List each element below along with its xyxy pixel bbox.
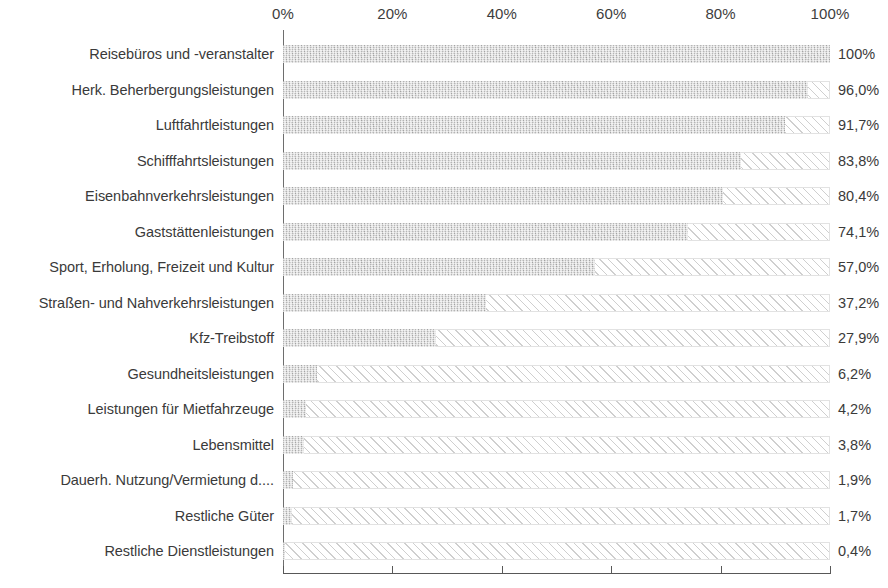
category-label: Dauerh. Nutzung/Vermietung d.... [0, 471, 274, 489]
axis-tick-mark [830, 566, 831, 574]
bar-remainder-hatch [283, 542, 830, 560]
bar-row [283, 400, 830, 418]
bar-fill [283, 436, 304, 454]
category-label: Schifffahrtsleistungen [0, 152, 274, 170]
category-label: Leistungen für Mietfahrzeuge [0, 400, 274, 418]
bar-fill [283, 81, 808, 99]
bar-row [283, 45, 830, 63]
category-label: Gaststättenleistungen [0, 223, 274, 241]
bar-fill [283, 258, 595, 276]
axis-tick-label: 80% [705, 5, 735, 22]
category-label: Straßen- und Nahverkehrsleistungen [0, 294, 274, 312]
axis-tick-label: 100% [811, 5, 850, 22]
bar-row [283, 258, 830, 276]
bar-fill [283, 400, 306, 418]
axis-tick-mark [611, 566, 612, 574]
bar-remainder-hatch [283, 365, 830, 383]
bar-row [283, 152, 830, 170]
bar-value-label: 96,0% [838, 81, 888, 99]
bar-value-label: 4,2% [838, 400, 888, 418]
bar-value-label: 57,0% [838, 258, 888, 276]
bar-remainder-hatch [283, 471, 830, 489]
bar-row [283, 365, 830, 383]
bar-fill [283, 116, 785, 134]
category-label: Restliche Dienstleistungen [0, 542, 274, 560]
bar-fill [283, 542, 285, 560]
bar-value-label: 100% [838, 45, 888, 63]
bar-fill [283, 45, 830, 63]
bar-row [283, 223, 830, 241]
axis-tick-mark [502, 566, 503, 574]
bar-fill [283, 187, 723, 205]
category-label: Lebensmittel [0, 436, 274, 454]
bar-fill [283, 294, 486, 312]
value-axis-line [283, 573, 831, 574]
plot-area [283, 30, 830, 564]
bar-value-label: 6,2% [838, 365, 888, 383]
bar-row [283, 187, 830, 205]
bar-fill [283, 471, 293, 489]
category-label: Sport, Erholung, Freizeit und Kultur [0, 258, 274, 276]
axis-tick-mark [721, 566, 722, 574]
category-label: Luftfahrtleistungen [0, 116, 274, 134]
axis-tick-label: 60% [596, 5, 626, 22]
bar-row [283, 542, 830, 560]
bar-value-label: 91,7% [838, 116, 888, 134]
bar-value-label: 80,4% [838, 187, 888, 205]
category-label: Restliche Güter [0, 507, 274, 525]
bar-row [283, 471, 830, 489]
bar-chart: 0%20%40%60%80%100% Reisebüros und -veran… [0, 0, 888, 588]
bar-value-label: 83,8% [838, 152, 888, 170]
bar-row [283, 329, 830, 347]
bar-fill [283, 365, 317, 383]
category-label: Herk. Beherbergungsleistungen [0, 81, 274, 99]
bar-value-label: 0,4% [838, 542, 888, 560]
bar-fill [283, 223, 688, 241]
axis-tick-label: 40% [487, 5, 517, 22]
axis-tick-label: 0% [272, 5, 294, 22]
axis-tick-mark [283, 566, 284, 574]
bar-row [283, 294, 830, 312]
bar-row [283, 116, 830, 134]
category-label: Kfz-Treibstoff [0, 329, 274, 347]
bar-row [283, 436, 830, 454]
bar-value-label: 74,1% [838, 223, 888, 241]
bar-value-label: 37,2% [838, 294, 888, 312]
value-axis-top: 0%20%40%60%80%100% [0, 0, 888, 30]
bar-fill [283, 507, 292, 525]
bar-remainder-hatch [283, 436, 830, 454]
category-label: Reisebüros und -veranstalter [0, 45, 274, 63]
bar-remainder-hatch [283, 400, 830, 418]
bar-row [283, 507, 830, 525]
bar-value-label: 3,8% [838, 436, 888, 454]
bar-fill [283, 329, 436, 347]
category-label: Eisenbahnverkehrsleistungen [0, 187, 274, 205]
category-label: Gesundheitsleistungen [0, 365, 274, 383]
axis-tick-mark [392, 566, 393, 574]
bar-remainder-hatch [283, 507, 830, 525]
bar-fill [283, 152, 741, 170]
bar-value-label: 1,9% [838, 471, 888, 489]
axis-tick-label: 20% [377, 5, 407, 22]
bar-row [283, 81, 830, 99]
bar-value-label: 1,7% [838, 507, 888, 525]
bar-value-label: 27,9% [838, 329, 888, 347]
